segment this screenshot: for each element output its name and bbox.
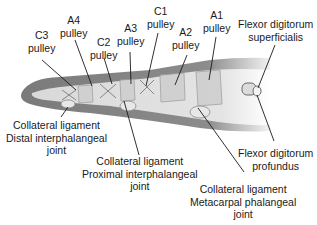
label-line: Distal interphalangeal	[6, 132, 107, 145]
label-line: A2	[172, 26, 199, 39]
label-line: Metacarpal phalangeal	[190, 196, 296, 209]
label-flexor-digitorum-profundus: Flexor digitorum profundus	[238, 147, 313, 172]
label-c1-pulley: C1 pulley	[147, 5, 174, 30]
label-line: pulley	[147, 18, 174, 31]
label-collateral-ligament-pip: Collateral ligament Proximal interphalan…	[82, 155, 198, 193]
a3-pulley-shape	[120, 79, 135, 101]
label-flexor-digitorum-superficialis: Flexor digitorum superficialis	[238, 18, 313, 43]
label-line: Collateral ligament	[190, 183, 296, 196]
label-collateral-ligament-mcp: Collateral ligament Metacarpal phalangea…	[190, 183, 296, 221]
label-a1-pulley: A1 pulley	[203, 9, 230, 34]
label-line: A4	[60, 14, 87, 27]
label-a2-pulley: A2 pulley	[172, 26, 199, 51]
label-a4-pulley: A4 pulley	[60, 14, 87, 39]
label-line: joint	[82, 180, 198, 193]
label-line: C3	[28, 29, 55, 42]
label-line: pulley	[90, 49, 117, 62]
label-c3-pulley: C3 pulley	[28, 29, 55, 54]
label-line: pulley	[117, 35, 144, 48]
label-line: pulley	[28, 42, 55, 55]
label-line: Collateral ligament	[6, 119, 107, 132]
label-line: joint	[190, 208, 296, 221]
label-line: A1	[203, 9, 230, 22]
label-line: C2	[90, 36, 117, 49]
a2-pulley-shape	[160, 73, 185, 102]
a1-pulley-shape	[196, 70, 222, 106]
label-line: pulley	[203, 22, 230, 35]
label-line: C1	[147, 5, 174, 18]
label-line: Proximal interphalangeal	[82, 168, 198, 181]
label-line: pulley	[60, 27, 87, 40]
label-line: Flexor digitorum	[238, 147, 313, 160]
a4-pulley-shape	[78, 85, 93, 103]
label-a3-pulley: A3 pulley	[117, 22, 144, 47]
label-c2-pulley: C2 pulley	[90, 36, 117, 61]
label-line: Flexor digitorum	[238, 18, 313, 31]
label-line: Collateral ligament	[82, 155, 198, 168]
label-line: superficialis	[238, 31, 313, 44]
label-line: profundus	[238, 160, 313, 173]
label-line: pulley	[172, 39, 199, 52]
label-collateral-ligament-dip: Collateral ligament Distal interphalange…	[6, 119, 107, 157]
label-line: A3	[117, 22, 144, 35]
